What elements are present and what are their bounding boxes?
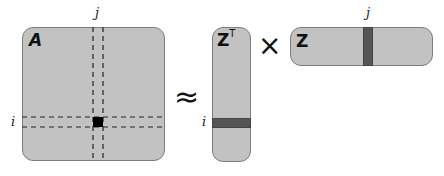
matrix-zt-letter: Z bbox=[217, 30, 229, 50]
matrix-zt-label: ZT bbox=[217, 30, 235, 50]
highlight-cell-ij bbox=[93, 117, 103, 127]
matrix-z-col-index: j bbox=[366, 5, 370, 20]
highlight-col-j bbox=[363, 27, 373, 66]
matrix-z bbox=[290, 27, 433, 66]
matrix-a-col-index: j bbox=[95, 5, 99, 20]
matrix-zt-row-index: i bbox=[202, 114, 206, 129]
approx-symbol: ≈ bbox=[174, 79, 199, 114]
transpose-superscript: T bbox=[229, 28, 235, 39]
times-symbol: × bbox=[258, 29, 281, 62]
matrix-z-label: Z bbox=[296, 31, 308, 51]
matrix-a-row-index: i bbox=[11, 114, 15, 129]
highlight-row-i bbox=[212, 118, 251, 128]
